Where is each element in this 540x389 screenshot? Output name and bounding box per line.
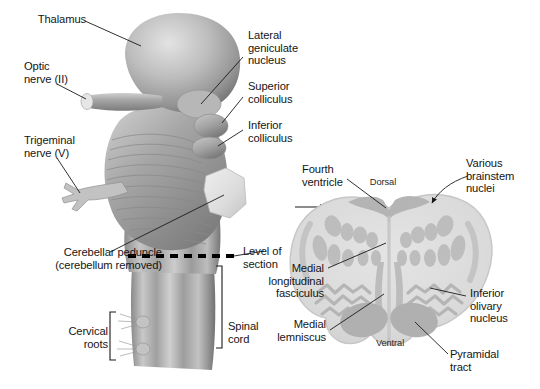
leader-superior-colliculus (222, 97, 243, 123)
label-dorsal: Dorsal (355, 177, 411, 188)
bracket-spinal-cord (216, 266, 222, 348)
bracket-cervical-roots (110, 312, 116, 360)
superior-colliculus-shape (194, 114, 228, 138)
label-superior-colliculus: Superior colliculus (248, 80, 322, 105)
label-optic-nerve: Optic nerve (II) (24, 60, 110, 85)
label-various-brainstem-nuclei: Various brainstem nuclei (466, 157, 538, 195)
label-trigeminal-nerve: Trigeminal nerve (V) (24, 134, 116, 159)
lateral-geniculate-shape (177, 90, 221, 118)
label-inferior-colliculus: Inferior colliculus (248, 119, 322, 144)
label-pyramidal-tract: Pyramidal tract (450, 348, 522, 373)
label-cerebellar-peduncle: Cerebellar peduncle (cerebellum removed) (12, 246, 162, 271)
label-medial-longitudinal-fasciculus: Medial longitudinal fasciculus (236, 262, 324, 300)
figure-canvas: Thalamus Optic nerve (II) Trigeminal ner… (0, 0, 540, 389)
label-inferior-olivary-nucleus: Inferior olivary nucleus (470, 287, 538, 325)
optic-nerve-cut-end (81, 94, 93, 110)
inferior-colliculus-shape (192, 137, 226, 159)
leader-optic-nerve (57, 84, 86, 99)
label-cervical-roots: Cervical roots (38, 325, 108, 350)
label-thalamus: Thalamus (4, 13, 86, 26)
label-ventral: Ventral (362, 338, 418, 349)
optic-nerve-shape (86, 93, 163, 111)
cerebellar-peduncle-cut-face (204, 168, 246, 218)
label-medial-lemniscus: Medial lemniscus (252, 318, 326, 343)
label-lateral-geniculate-nucleus: Lateral geniculate nucleus (248, 29, 322, 67)
